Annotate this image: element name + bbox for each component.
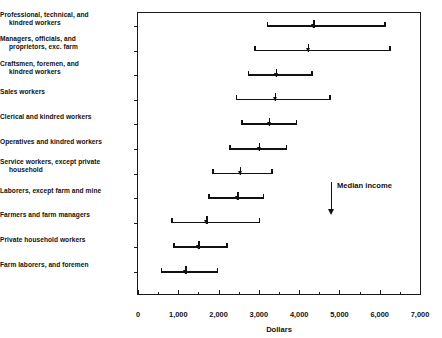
y-axis-tick bbox=[134, 51, 138, 52]
range-high-cap bbox=[296, 120, 298, 125]
category-label-line1: Sales workers bbox=[0, 88, 45, 95]
x-axis-tick-label: 4,000 bbox=[290, 310, 309, 319]
category-label: Operatives and kindred workers bbox=[0, 138, 128, 146]
category-label: Farmers and farm managers bbox=[0, 211, 128, 219]
y-axis-tick bbox=[134, 174, 138, 175]
category-label-line1: Clerical and kindred workers bbox=[0, 113, 92, 120]
range-high-cap bbox=[271, 169, 273, 174]
category-label-line1: Private household workers bbox=[0, 236, 86, 243]
x-axis-tick-major bbox=[138, 290, 139, 295]
median-marker bbox=[185, 266, 187, 274]
median-marker bbox=[198, 241, 200, 249]
x-axis-tick-minor bbox=[400, 292, 401, 295]
category-label: Managers, officials, andproprietors, exc… bbox=[0, 35, 128, 51]
category-label: Craftsmen, foremen, andkindred workers bbox=[0, 60, 128, 76]
income-range-chart: Professional, technical, andkindred work… bbox=[0, 0, 442, 338]
y-axis-tick bbox=[134, 223, 138, 224]
x-axis-tick-label: 2,000 bbox=[209, 310, 228, 319]
range-high-cap bbox=[286, 145, 288, 150]
y-axis-tick bbox=[134, 272, 138, 273]
median-marker bbox=[237, 192, 239, 200]
range-low-cap bbox=[229, 145, 231, 150]
category-label-line1: Managers, officials, and bbox=[0, 35, 76, 42]
median-marker bbox=[240, 167, 242, 175]
x-axis-tick-label: 6,000 bbox=[370, 310, 389, 319]
x-axis-tick-minor bbox=[319, 292, 320, 295]
x-axis-tick-label: 0 bbox=[136, 310, 140, 319]
median-marker bbox=[269, 118, 271, 126]
x-axis-tick-major bbox=[259, 290, 260, 295]
range-bar bbox=[171, 222, 260, 224]
range-high-cap bbox=[259, 218, 261, 223]
annotation-label: Median income bbox=[337, 181, 392, 190]
down-arrow-icon bbox=[328, 209, 334, 215]
x-axis-tick-minor bbox=[279, 292, 280, 295]
category-label-line2: household bbox=[0, 166, 128, 174]
range-low-cap bbox=[236, 95, 238, 100]
plot-area bbox=[138, 13, 420, 294]
category-label-line1: Service workers, except private bbox=[0, 158, 100, 165]
x-axis-tick-label: 3,000 bbox=[250, 310, 269, 319]
x-axis-tick-minor bbox=[198, 292, 199, 295]
x-axis-tick-minor bbox=[239, 292, 240, 295]
range-bar bbox=[267, 25, 386, 27]
category-label-line1: Farm laborers, and foremen bbox=[0, 261, 89, 268]
x-axis-tick-major bbox=[339, 290, 340, 295]
median-marker bbox=[259, 143, 261, 151]
range-low-cap bbox=[248, 71, 250, 76]
range-low-cap bbox=[267, 22, 269, 27]
range-high-cap bbox=[329, 95, 331, 100]
category-label-line2: kindred workers bbox=[0, 68, 128, 76]
median-marker bbox=[206, 216, 208, 224]
range-low-cap bbox=[208, 194, 210, 199]
x-axis-tick-label: 5,000 bbox=[330, 310, 349, 319]
range-bar bbox=[241, 123, 297, 125]
x-axis-tick-minor bbox=[158, 292, 159, 295]
range-bar bbox=[208, 197, 264, 199]
x-axis-tick-major bbox=[380, 290, 381, 295]
category-label-line2: kindred workers bbox=[0, 19, 128, 27]
median-marker bbox=[276, 69, 278, 77]
category-label-line1: Professional, technical, and bbox=[0, 11, 89, 18]
median-marker bbox=[275, 93, 277, 101]
y-axis-tick bbox=[134, 124, 138, 125]
category-label: Professional, technical, andkindred work… bbox=[0, 11, 128, 27]
x-axis-tick-major bbox=[178, 290, 179, 295]
category-label-line1: Farmers and farm managers bbox=[0, 211, 90, 218]
range-bar bbox=[236, 99, 331, 101]
median-marker bbox=[313, 20, 315, 28]
category-label: Farm laborers, and foremen bbox=[0, 261, 128, 269]
y-axis-tick bbox=[134, 198, 138, 199]
range-low-cap bbox=[212, 169, 214, 174]
y-axis-tick bbox=[134, 75, 138, 76]
x-axis-tick-label: 1,000 bbox=[169, 310, 188, 319]
range-low-cap bbox=[254, 46, 256, 51]
range-bar bbox=[161, 271, 218, 273]
x-axis-tick-major bbox=[299, 290, 300, 295]
category-label-line1: Operatives and kindred workers bbox=[0, 138, 102, 145]
range-bar bbox=[248, 74, 313, 76]
plot-frame: Median income Dollars 01,0002,0003,0004,… bbox=[137, 12, 421, 295]
range-bar bbox=[212, 173, 273, 175]
category-label-line1: Laborers, except farm and mine bbox=[0, 187, 101, 194]
y-axis-tick bbox=[134, 247, 138, 248]
annotation-arrow-line bbox=[331, 182, 332, 211]
category-label-line2: proprietors, exc. farm bbox=[0, 43, 128, 51]
range-high-cap bbox=[311, 71, 313, 76]
range-bar bbox=[173, 246, 228, 248]
range-high-cap bbox=[389, 46, 391, 51]
x-axis-tick-minor bbox=[360, 292, 361, 295]
range-high-cap bbox=[384, 22, 386, 27]
category-label-column: Professional, technical, andkindred work… bbox=[0, 0, 132, 293]
y-axis-tick bbox=[134, 100, 138, 101]
x-axis-tick-major bbox=[420, 290, 421, 295]
range-low-cap bbox=[173, 243, 175, 248]
range-low-cap bbox=[161, 268, 163, 273]
range-high-cap bbox=[226, 243, 228, 248]
y-axis-tick bbox=[134, 149, 138, 150]
range-high-cap bbox=[217, 268, 219, 273]
range-bar bbox=[254, 50, 391, 52]
category-label: Laborers, except farm and mine bbox=[0, 187, 128, 195]
range-high-cap bbox=[263, 194, 265, 199]
median-marker bbox=[308, 44, 310, 52]
